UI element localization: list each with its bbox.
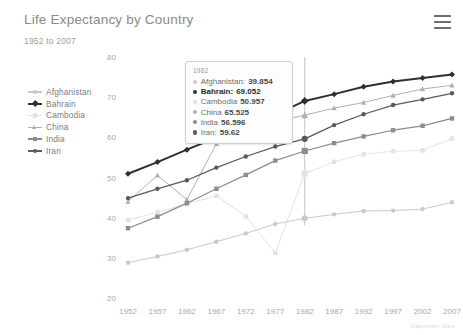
data-point-marker[interactable]: [155, 210, 159, 214]
legend-item-label: Cambodia: [46, 110, 85, 120]
legend-item-iran[interactable]: Iran: [28, 145, 120, 157]
tooltip-year: 1982: [193, 67, 286, 74]
data-point-marker[interactable]: [302, 171, 308, 177]
data-point-marker[interactable]: [391, 208, 395, 212]
data-point-marker[interactable]: [450, 91, 454, 95]
tooltip-series-name: Iran:: [201, 128, 217, 137]
data-point-marker[interactable]: [214, 165, 218, 169]
data-point-marker[interactable]: [126, 226, 130, 230]
data-point-marker[interactable]: [420, 207, 424, 211]
legend-swatch-icon: [28, 110, 42, 121]
data-point-marker[interactable]: [332, 212, 336, 216]
data-point-marker[interactable]: [214, 187, 218, 191]
data-point-marker[interactable]: [126, 218, 130, 222]
data-point-marker[interactable]: [449, 72, 455, 78]
data-point-marker[interactable]: [391, 128, 395, 132]
tooltip-series-value: 69.052: [236, 87, 260, 96]
legend-item-india[interactable]: India: [28, 133, 120, 145]
legend-item-label: Bahrain: [46, 99, 76, 109]
data-point-marker[interactable]: [302, 136, 308, 142]
legend-item-cambodia[interactable]: Cambodia: [28, 110, 120, 122]
data-point-marker[interactable]: [244, 173, 248, 177]
data-point-marker[interactable]: [154, 159, 160, 165]
legend-swatch-icon: [28, 86, 42, 97]
y-axis-tick-label: 30: [107, 254, 116, 263]
data-point-marker[interactable]: [273, 144, 277, 148]
tooltip-series-name: Afghanistan:: [201, 77, 245, 86]
legend-item-bahrain[interactable]: Bahrain: [28, 98, 120, 110]
data-point-marker[interactable]: [361, 84, 367, 90]
data-point-marker[interactable]: [125, 171, 131, 177]
legend-item-label: China: [46, 122, 68, 132]
data-point-marker[interactable]: [273, 222, 277, 226]
tooltip-series-value: 65.525: [225, 108, 249, 117]
x-axis-tick-label: 1962: [178, 307, 196, 316]
y-axis-tick-label: 80: [107, 53, 116, 62]
data-point-marker[interactable]: [126, 260, 130, 264]
data-point-marker[interactable]: [155, 214, 159, 218]
legend-swatch-icon: [28, 145, 42, 156]
legend-item-afghanistan[interactable]: Afghanistan: [28, 86, 120, 98]
data-point-marker[interactable]: [244, 214, 248, 218]
data-point-marker[interactable]: [155, 172, 160, 177]
x-axis-tick-label: 1997: [384, 307, 402, 316]
data-point-marker[interactable]: [450, 136, 454, 140]
tooltip-series-name: Bahrain:: [201, 87, 233, 96]
data-point-marker[interactable]: [361, 209, 365, 213]
tooltip-series-value: 56.596: [221, 118, 245, 127]
data-point-marker[interactable]: [332, 141, 336, 145]
data-point-marker[interactable]: [184, 147, 190, 153]
tooltip-row: Iran:59.62: [193, 127, 286, 137]
tooltip-row: China65.525: [193, 107, 286, 117]
data-point-marker[interactable]: [391, 103, 395, 107]
tooltip-row: Cambodia50.957: [193, 97, 286, 107]
data-point-marker[interactable]: [244, 231, 248, 235]
data-point-marker[interactable]: [302, 148, 308, 154]
tooltip-series-dot-icon: [193, 120, 197, 124]
data-point-marker[interactable]: [273, 158, 277, 162]
legend-item-label: India: [46, 134, 65, 144]
data-point-marker[interactable]: [449, 82, 454, 87]
data-point-marker[interactable]: [155, 187, 159, 191]
legend-item-label: Afghanistan: [46, 87, 91, 97]
data-point-marker[interactable]: [361, 152, 365, 156]
data-point-marker[interactable]: [420, 75, 426, 81]
legend-item-label: Iran: [46, 146, 61, 156]
data-point-marker[interactable]: [302, 215, 308, 221]
x-axis-tick-label: 1972: [237, 307, 255, 316]
data-point-marker[interactable]: [450, 116, 454, 120]
legend-item-china[interactable]: China: [28, 121, 120, 133]
tooltip-row: India56.596: [193, 117, 286, 127]
data-point-marker[interactable]: [185, 248, 189, 252]
data-point-marker[interactable]: [301, 97, 309, 105]
chart-plot-area: 20304050607080 1952195719621967197219771…: [0, 0, 463, 335]
data-point-marker[interactable]: [450, 200, 454, 204]
data-point-marker[interactable]: [273, 251, 277, 255]
data-point-marker[interactable]: [185, 178, 189, 182]
data-point-marker[interactable]: [332, 160, 336, 164]
data-point-marker[interactable]: [155, 254, 159, 258]
tooltip-series-name: China: [201, 108, 222, 117]
data-point-marker[interactable]: [185, 201, 189, 205]
series-afghanistan[interactable]: [126, 200, 454, 265]
y-axis-tick-label: 40: [107, 214, 116, 223]
data-point-marker[interactable]: [420, 97, 424, 101]
data-point-marker[interactable]: [361, 112, 365, 116]
tooltip-series-name: Cambodia: [201, 97, 237, 106]
data-point-marker[interactable]: [420, 148, 424, 152]
data-point-marker[interactable]: [331, 91, 337, 97]
data-point-marker[interactable]: [420, 124, 424, 128]
data-point-marker[interactable]: [214, 239, 218, 243]
data-point-marker[interactable]: [244, 154, 248, 158]
data-point-marker[interactable]: [214, 194, 218, 198]
data-point-marker[interactable]: [332, 123, 336, 127]
data-point-marker[interactable]: [391, 149, 395, 153]
attribution-text: Gapminder Data: [410, 323, 455, 329]
data-point-marker[interactable]: [390, 78, 396, 84]
x-axis-tick-label: 2002: [414, 307, 432, 316]
data-point-marker[interactable]: [126, 196, 130, 200]
y-axis-tick-label: 50: [107, 174, 116, 183]
tooltip-series-value: 50.957: [240, 97, 264, 106]
data-point-marker[interactable]: [361, 134, 365, 138]
tooltip-series-dot-icon: [193, 100, 197, 104]
